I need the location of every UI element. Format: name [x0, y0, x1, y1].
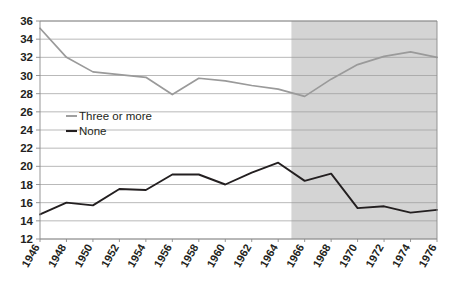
x-tick-label: 1968 [310, 242, 333, 269]
x-tick-label: 1970 [337, 242, 360, 269]
y-axis-tick-labels: 12141618202224262830323436 [20, 15, 40, 245]
y-tick-label: 36 [20, 15, 33, 27]
y-tick-label: 26 [20, 106, 33, 118]
y-tick-label: 34 [20, 33, 33, 45]
x-tick-label: 1956 [151, 242, 174, 269]
x-tick-label: 1964 [257, 241, 280, 269]
x-tick-label: 1958 [178, 242, 201, 269]
y-tick-label: 14 [20, 215, 33, 227]
x-tick-label: 1976 [416, 242, 439, 269]
x-tick-label: 1974 [390, 241, 413, 269]
x-tick-label: 1954 [125, 241, 148, 269]
y-tick-label: 20 [20, 160, 33, 172]
x-tick-label: 1946 [19, 242, 42, 269]
x-tick-label: 1962 [231, 242, 254, 269]
y-tick-label: 28 [20, 88, 33, 100]
line-chart: 12141618202224262830323436 1946194819501… [0, 0, 455, 288]
y-tick-label: 30 [20, 70, 33, 82]
x-tick-label: 1952 [98, 242, 121, 269]
x-tick-label: 1960 [204, 242, 227, 269]
y-tick-label: 18 [20, 179, 33, 191]
x-tick-label: 1950 [72, 242, 95, 269]
y-tick-label: 32 [20, 51, 33, 63]
chart-svg: 12141618202224262830323436 1946194819501… [0, 0, 455, 288]
x-tick-label: 1966 [284, 242, 307, 269]
y-tick-label: 24 [20, 124, 33, 136]
legend-label: Three or more [79, 110, 152, 122]
legend-label: None [79, 125, 107, 137]
x-tick-label: 1972 [363, 242, 386, 269]
x-axis-tick-labels: 1946194819501952195419561958196019621964… [19, 239, 439, 269]
y-tick-label: 16 [20, 197, 33, 209]
y-tick-label: 22 [20, 142, 33, 154]
x-tick-label: 1948 [46, 242, 69, 269]
